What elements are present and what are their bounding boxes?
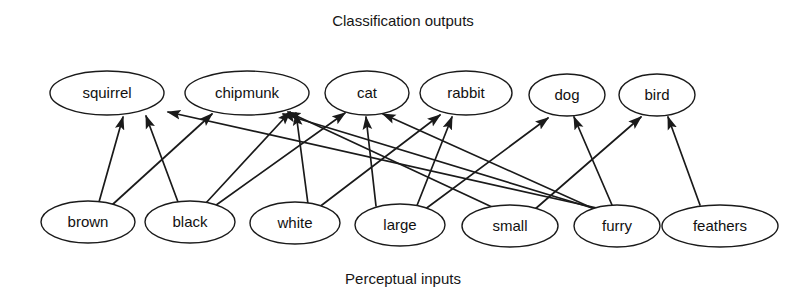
edge-feathers-to-bird bbox=[668, 117, 700, 205]
output-node-label-squirrel: squirrel bbox=[82, 84, 131, 101]
output-node-bird[interactable]: bird bbox=[619, 74, 695, 116]
output-node-label-bird: bird bbox=[644, 86, 669, 103]
output-node-squirrel[interactable]: squirrel bbox=[50, 71, 164, 115]
output-node-chipmunk[interactable]: chipmunk bbox=[185, 71, 309, 115]
output-node-label-dog: dog bbox=[554, 86, 579, 103]
output-node-label-rabbit: rabbit bbox=[447, 84, 485, 101]
nodes-group: squirrelchipmunkcatrabbitdogbirdbrownbla… bbox=[41, 71, 778, 247]
edge-furry-to-chipmunk bbox=[283, 114, 599, 210]
edge-furry-to-cat bbox=[383, 114, 601, 212]
input-node-brown[interactable]: brown bbox=[41, 201, 135, 243]
bottom-caption: Perceptual inputs bbox=[345, 270, 461, 287]
top-caption: Classification outputs bbox=[332, 12, 474, 29]
input-node-furry[interactable]: furry bbox=[574, 205, 660, 247]
network-canvas: squirrelchipmunkcatrabbitdogbirdbrownbla… bbox=[0, 0, 806, 301]
input-node-large[interactable]: large bbox=[355, 204, 445, 246]
output-node-label-cat: cat bbox=[357, 84, 378, 101]
input-node-white[interactable]: white bbox=[250, 202, 340, 244]
input-node-label-small: small bbox=[492, 217, 527, 234]
output-node-dog[interactable]: dog bbox=[529, 74, 605, 116]
input-node-label-black: black bbox=[172, 213, 208, 230]
edge-small-to-chipmunk bbox=[288, 112, 492, 207]
output-node-cat[interactable]: cat bbox=[325, 71, 409, 115]
edge-furry-to-dog bbox=[574, 117, 612, 205]
edge-large-to-cat bbox=[366, 117, 376, 206]
edge-brown-to-squirrel bbox=[99, 117, 123, 202]
input-node-label-large: large bbox=[383, 216, 416, 233]
edges-group bbox=[99, 112, 700, 212]
edge-large-to-dog bbox=[424, 118, 548, 210]
input-node-label-brown: brown bbox=[68, 213, 109, 230]
input-node-label-feathers: feathers bbox=[693, 217, 747, 234]
edge-white-to-chipmunk bbox=[296, 113, 308, 204]
semantic-network-diagram: squirrelchipmunkcatrabbitdogbirdbrownbla… bbox=[0, 0, 806, 301]
output-node-rabbit[interactable]: rabbit bbox=[420, 71, 512, 115]
edge-small-to-bird bbox=[534, 117, 641, 210]
edge-black-to-chipmunk bbox=[205, 112, 290, 204]
input-node-feathers[interactable]: feathers bbox=[662, 205, 778, 247]
input-node-label-white: white bbox=[276, 214, 312, 231]
output-node-label-chipmunk: chipmunk bbox=[215, 84, 280, 101]
edge-black-to-squirrel bbox=[146, 116, 178, 202]
input-node-black[interactable]: black bbox=[145, 201, 235, 243]
input-node-label-furry: furry bbox=[602, 217, 633, 234]
input-node-small[interactable]: small bbox=[462, 205, 558, 247]
